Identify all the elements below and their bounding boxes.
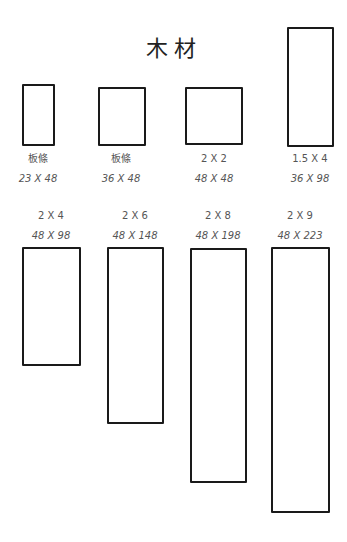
board-label: 2 X 648 X 148 (90, 209, 180, 242)
board-rect (287, 27, 334, 147)
board-name: 2 X 8 (173, 209, 263, 222)
board-dimensions: 48 X 223 (255, 229, 345, 242)
board-label: 2 X 448 X 98 (6, 209, 96, 242)
board-dimensions: 48 X 198 (173, 229, 263, 242)
board-name: 板條 (0, 152, 83, 165)
board-rect (98, 87, 146, 146)
board-rect (22, 247, 81, 366)
board-rect (271, 247, 330, 513)
board-label: 2 X 948 X 223 (255, 209, 345, 242)
board-label: 1.5 X 436 X 98 (265, 152, 347, 185)
board-dimensions: 36 X 98 (265, 172, 347, 185)
board-name: 2 X 4 (6, 209, 96, 222)
board-rect (107, 247, 164, 424)
board-rect (185, 87, 243, 145)
board-label: 板條36 X 48 (76, 152, 166, 185)
board-label: 板條23 X 48 (0, 152, 83, 185)
board-dimensions: 36 X 48 (76, 172, 166, 185)
board-dimensions: 23 X 48 (0, 172, 83, 185)
board-label: 2 X 248 X 48 (169, 152, 259, 185)
board-name: 2 X 6 (90, 209, 180, 222)
board-name: 2 X 9 (255, 209, 345, 222)
board-dimensions: 48 X 98 (6, 229, 96, 242)
board-label: 2 X 848 X 198 (173, 209, 263, 242)
board-name: 2 X 2 (169, 152, 259, 165)
board-name: 板條 (76, 152, 166, 165)
board-name: 1.5 X 4 (265, 152, 347, 165)
board-dimensions: 48 X 148 (90, 229, 180, 242)
board-rect (22, 84, 55, 146)
board-rect (190, 248, 247, 483)
board-dimensions: 48 X 48 (169, 172, 259, 185)
